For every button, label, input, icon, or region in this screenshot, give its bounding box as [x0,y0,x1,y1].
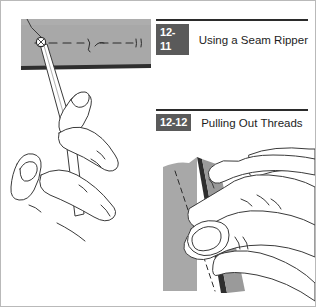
caption-rule [156,109,308,111]
figure-page: 12-11 Using a Seam Ripper 12-12 Pulling … [0,0,316,307]
hand-outline [11,92,118,241]
caption-row: 12-11 Using a Seam Ripper [156,24,308,55]
figure-number-badge: 12-12 [156,114,191,131]
caption-block-12-11: 12-11 Using a Seam Ripper [156,19,308,55]
figure-caption-title: Using a Seam Ripper [199,33,308,47]
figure-number-badge: 12-11 [156,24,189,55]
caption-row: 12-12 Pulling Out Threads [156,114,308,131]
caption-block-12-12: 12-12 Pulling Out Threads [156,109,308,131]
illustration-seam-ripper [5,9,157,249]
seam-ripper-drawing [5,9,157,249]
illustration-pulling-threads [153,141,315,305]
caption-rule [156,19,308,21]
pulling-threads-drawing [153,141,315,305]
figure-caption-title: Pulling Out Threads [201,116,302,130]
